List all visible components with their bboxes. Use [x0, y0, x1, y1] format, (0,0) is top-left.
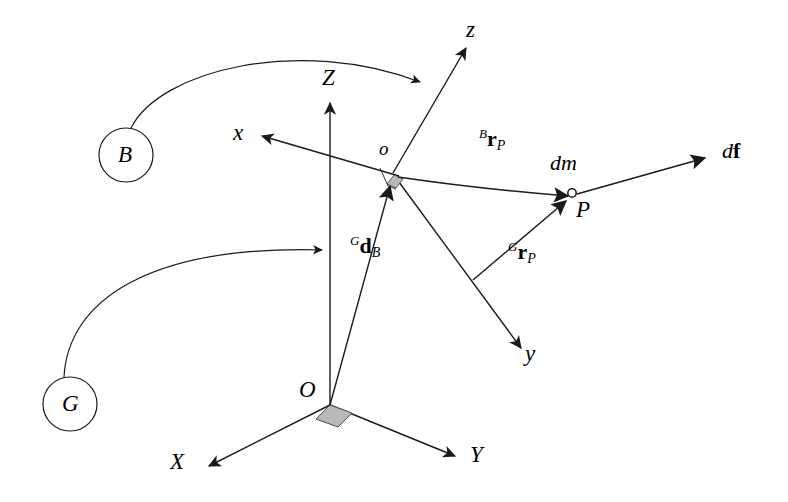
diagram-canvas	[0, 0, 788, 502]
point-label-P: P	[576, 198, 590, 221]
vector-gr-p-subscript: P	[527, 251, 536, 266]
vector-gd-b-symbol: d	[359, 233, 371, 258]
axis-label-Y: Y	[470, 443, 483, 466]
frame-badge-label-b: B	[118, 143, 132, 166]
frame-badge-label-g: G	[62, 392, 79, 415]
axis-label-Z: Z	[322, 66, 335, 89]
axis-label-z: z	[466, 18, 475, 41]
axis-label-y: y	[525, 342, 535, 365]
vector-label-gd-b: GdB	[350, 234, 380, 260]
axis-label-x: x	[233, 121, 243, 144]
global-axis-X-line	[209, 405, 330, 466]
vector-br-p-line	[398, 177, 568, 196]
vector-label-gr-p: GrP	[508, 240, 536, 266]
vector-gd-b-line	[330, 186, 390, 405]
callout-arc-g	[64, 250, 322, 377]
vector-label-br-p: BrP	[479, 127, 505, 153]
vector-gd-b-subscript: B	[372, 245, 381, 260]
force-label-f: f	[733, 138, 740, 163]
mass-element-label: dm	[550, 152, 577, 174]
body-axis-z-line	[393, 48, 466, 173]
vector-gd-b-presuperscript: G	[350, 233, 359, 248]
axis-label-X: X	[170, 450, 184, 473]
body-axis-y-line	[396, 178, 521, 348]
vector-br-p-subscript: P	[497, 138, 506, 153]
right-angle-marker-O	[316, 405, 352, 427]
force-label-d: d	[722, 138, 733, 163]
force-label-df: df	[722, 140, 740, 162]
vector-df-line	[577, 158, 705, 194]
origin-label-o: o	[379, 139, 389, 158]
figure-root: B G Z X Y z x y O o dm P BrP GdB GrP df	[0, 0, 788, 502]
origin-label-O: O	[299, 378, 316, 401]
vector-br-p-symbol: r	[487, 126, 497, 151]
vector-br-p-presuperscript: B	[479, 126, 487, 141]
vector-gr-p-symbol: r	[517, 239, 527, 264]
point-p-marker	[568, 189, 576, 197]
callout-arc-b	[131, 61, 420, 128]
vector-gr-p-presuperscript: G	[508, 239, 517, 254]
